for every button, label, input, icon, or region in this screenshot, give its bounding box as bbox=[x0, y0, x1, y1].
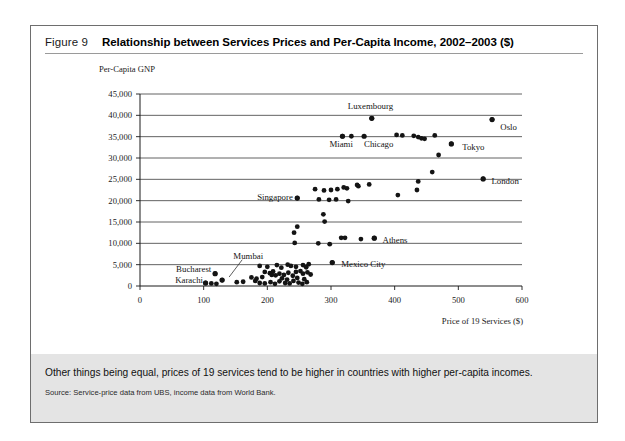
data-point bbox=[411, 133, 416, 138]
annotated-data-point bbox=[295, 196, 300, 201]
x-tick-label: 0 bbox=[138, 295, 142, 305]
y-tick-label: 35,000 bbox=[108, 132, 132, 142]
data-point bbox=[356, 184, 361, 189]
annotated-data-point bbox=[489, 117, 494, 122]
data-point bbox=[214, 281, 219, 286]
figure-header: Figure 9Relationship between Services Pr… bbox=[31, 26, 597, 54]
data-point bbox=[274, 263, 279, 268]
data-point bbox=[209, 281, 214, 286]
data-point bbox=[432, 133, 437, 138]
city-annotations: LuxembourgOsloMiamiChicagoTokyoLondonSin… bbox=[175, 101, 519, 285]
data-point bbox=[394, 133, 399, 138]
data-point bbox=[292, 241, 297, 246]
city-label: Oslo bbox=[500, 122, 517, 132]
data-point bbox=[300, 281, 305, 286]
y-tick-label: 20,000 bbox=[108, 196, 132, 206]
data-point bbox=[349, 134, 354, 139]
data-point bbox=[294, 264, 299, 269]
data-point bbox=[257, 281, 262, 286]
scatter-chart: 0100200300400500600 05,00010,00015,00020… bbox=[31, 54, 599, 356]
leader-line bbox=[229, 260, 242, 277]
y-tick-label: 25,000 bbox=[108, 174, 132, 184]
data-point bbox=[345, 186, 350, 191]
data-point bbox=[322, 219, 327, 224]
data-point bbox=[249, 275, 254, 280]
data-point bbox=[295, 224, 300, 229]
annotated-data-point bbox=[369, 116, 374, 121]
axis-ticks bbox=[136, 94, 522, 290]
data-point bbox=[277, 271, 282, 276]
annotated-data-point bbox=[213, 271, 218, 276]
city-label: Athens bbox=[383, 235, 408, 245]
data-point bbox=[327, 197, 332, 202]
data-point bbox=[295, 275, 300, 280]
data-point bbox=[285, 277, 290, 282]
data-point bbox=[241, 279, 246, 284]
annotated-data-point bbox=[220, 277, 225, 282]
data-point bbox=[306, 262, 311, 267]
y-tick-label: 5,000 bbox=[113, 260, 132, 270]
city-label: Karachi bbox=[175, 275, 203, 285]
data-point bbox=[268, 280, 273, 285]
data-point bbox=[400, 133, 405, 138]
data-point bbox=[359, 237, 364, 242]
chart-plot-area: 0100200300400500600 05,00010,00015,00020… bbox=[31, 54, 599, 356]
data-point bbox=[430, 170, 435, 175]
data-point bbox=[334, 197, 339, 202]
data-point bbox=[395, 193, 400, 198]
data-point bbox=[265, 264, 270, 269]
data-point bbox=[294, 270, 299, 275]
x-axis-label: Price of 19 Services ($) bbox=[442, 316, 523, 326]
data-point bbox=[322, 188, 327, 193]
city-label: Singapore bbox=[257, 192, 293, 202]
y-tick-label: 15,000 bbox=[108, 217, 132, 227]
annotated-data-point bbox=[330, 260, 335, 265]
figure-caption: Other things being equal, prices of 19 s… bbox=[45, 366, 583, 379]
data-point bbox=[279, 265, 284, 270]
city-label: London bbox=[491, 176, 519, 186]
x-tick-label: 200 bbox=[261, 295, 274, 305]
city-label: Luxembourg bbox=[348, 101, 394, 111]
annotated-data-point bbox=[481, 176, 486, 181]
data-point bbox=[290, 273, 295, 278]
data-point bbox=[262, 270, 267, 275]
data-point bbox=[316, 241, 321, 246]
data-point bbox=[346, 199, 351, 204]
data-point bbox=[367, 182, 372, 187]
city-label: Tokyo bbox=[462, 142, 485, 152]
data-point bbox=[416, 179, 421, 184]
x-tick-label: 500 bbox=[452, 295, 465, 305]
figure-header-rule: Figure 9Relationship between Services Pr… bbox=[45, 32, 583, 54]
data-point bbox=[302, 277, 307, 282]
data-point bbox=[254, 276, 259, 281]
city-label: Miami bbox=[329, 139, 353, 149]
annotation-leader-lines bbox=[229, 260, 242, 277]
data-point bbox=[292, 230, 297, 235]
y-tick-labels: 05,00010,00015,00020,00025,00030,00035,0… bbox=[108, 89, 132, 291]
y-tick-label: 0 bbox=[128, 281, 132, 291]
data-point bbox=[260, 275, 265, 280]
figure-source: Source: Service-price data from UBS, inc… bbox=[45, 388, 583, 398]
y-tick-label: 10,000 bbox=[108, 238, 132, 248]
data-point bbox=[327, 242, 332, 247]
x-tick-labels: 0100200300400500600 bbox=[138, 295, 529, 305]
annotated-data-point bbox=[203, 280, 208, 285]
y-axis-label: Per-Capita GNP bbox=[99, 64, 155, 74]
caption-band: Other things being equal, prices of 19 s… bbox=[31, 354, 597, 422]
data-point bbox=[313, 187, 318, 192]
data-point bbox=[273, 281, 278, 286]
x-tick-label: 100 bbox=[197, 295, 210, 305]
figure-number: Figure 9 bbox=[45, 36, 88, 48]
city-label: Chicago bbox=[364, 139, 394, 149]
data-point bbox=[422, 136, 427, 141]
x-tick-label: 300 bbox=[325, 295, 338, 305]
data-point bbox=[262, 281, 267, 286]
data-point bbox=[280, 276, 285, 281]
data-point bbox=[317, 197, 322, 202]
data-point bbox=[321, 212, 326, 217]
annotated-data-point bbox=[449, 141, 454, 146]
data-point bbox=[301, 271, 306, 276]
annotated-data-point bbox=[372, 236, 377, 241]
data-point bbox=[257, 264, 262, 269]
data-point bbox=[308, 272, 313, 277]
